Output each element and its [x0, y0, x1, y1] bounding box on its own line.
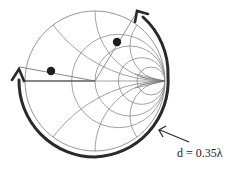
- load-point-dot: [47, 67, 55, 75]
- pointer-arrow-shaft: [160, 130, 189, 142]
- load-radial-line: [20, 67, 95, 81]
- transformed-radial-line: [95, 12, 137, 81]
- reactance-arc-pos-2: [130, 11, 200, 81]
- smith-chart-diagram: d = 0.35λ: [0, 0, 241, 173]
- distance-label: d = 0.35λ: [177, 146, 223, 161]
- transformed-point-dot: [113, 38, 121, 46]
- reactance-arc-pos-0.5: [25, 0, 241, 81]
